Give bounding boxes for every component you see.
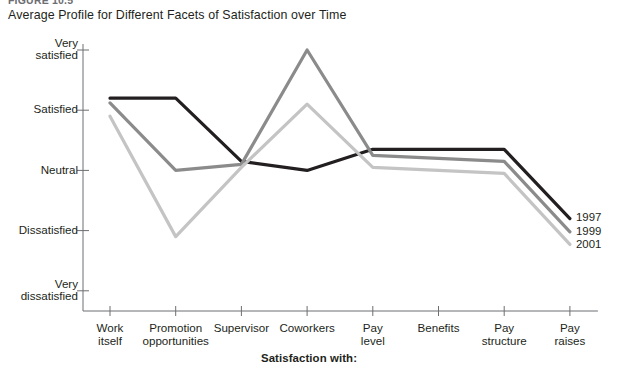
line-chart-plot (0, 0, 618, 374)
x-axis-label-line: Pay (522, 321, 618, 334)
legend-label-1997: 1997 (576, 211, 601, 224)
x-axis-label-line: level (325, 334, 421, 347)
y-axis-label: Satisfied (0, 103, 78, 116)
legend-label-2001: 2001 (576, 238, 601, 251)
legend-label-1999: 1999 (576, 225, 601, 238)
y-axis-label-line: Dissatisfied (0, 224, 78, 237)
x-axis-title: Satisfaction with: (0, 352, 618, 364)
series-line-1999 (110, 50, 570, 232)
y-axis-label: Verydissatisfied (0, 278, 78, 303)
x-axis-label-line: raises (522, 334, 618, 347)
series-line-2001 (110, 104, 570, 244)
series-line-1997 (110, 98, 570, 218)
x-axis-label: Payraises (522, 321, 618, 347)
y-axis-label: Neutral (0, 164, 78, 177)
figure-root: FIGURE 10.5 Average Profile for Differen… (0, 0, 618, 374)
y-axis-label-line: satisfied (0, 49, 78, 62)
y-axis-label-line: Satisfied (0, 103, 78, 116)
y-axis-label: Dissatisfied (0, 224, 78, 237)
y-axis-label-line: dissatisfied (0, 290, 78, 303)
y-axis-label: Verysatisfied (0, 37, 78, 62)
y-axis-label-line: Neutral (0, 164, 78, 177)
x-axis-label-line: opportunities (128, 334, 224, 347)
